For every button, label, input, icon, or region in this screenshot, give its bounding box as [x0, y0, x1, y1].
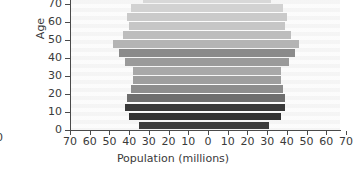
y-tick-label: 50 — [38, 33, 62, 46]
x-tick-label: 10 — [177, 135, 199, 148]
x-tick-label: 40 — [276, 135, 298, 148]
x-tick-label: 70 — [335, 135, 357, 148]
y-tick — [65, 130, 70, 131]
x-tick-label: 60 — [315, 135, 337, 148]
x-tick-label: 40 — [118, 135, 140, 148]
x-tick-label: 50 — [296, 135, 318, 148]
x-tick-label: 30 — [256, 135, 278, 148]
bar-10-14 — [125, 104, 285, 112]
clipped-neighbor-label: 0 — [0, 131, 3, 144]
x-tick-label: 0 — [197, 135, 219, 148]
x-tick-label: 30 — [138, 135, 160, 148]
y-tick-label: 40 — [38, 51, 62, 64]
x-tick-label: 10 — [217, 135, 239, 148]
y-tick — [65, 22, 70, 23]
y-tick-label: 60 — [38, 15, 62, 28]
bar-5-9 — [129, 113, 281, 121]
x-tick-label: 20 — [236, 135, 258, 148]
y-tick — [65, 4, 70, 5]
bar-20-24 — [131, 85, 283, 93]
bar-30-34 — [133, 67, 281, 75]
y-tick-label: 0 — [38, 123, 62, 136]
x-tick-label: 50 — [98, 135, 120, 148]
y-tick-label: 20 — [38, 87, 62, 100]
y-tick-label: 30 — [38, 69, 62, 82]
bar-45-49 — [113, 40, 298, 48]
bar-40-44 — [119, 49, 294, 57]
x-axis-spine — [70, 130, 341, 131]
bar-25-29 — [133, 76, 281, 84]
y-tick — [65, 40, 70, 41]
bar-15-19 — [127, 94, 285, 102]
y-tick — [65, 58, 70, 59]
bar-55-59 — [129, 22, 285, 30]
x-axis-title: Population (millions) — [0, 152, 350, 165]
y-tick-label: 10 — [38, 105, 62, 118]
y-tick — [65, 76, 70, 77]
bar-0-4 — [139, 122, 269, 130]
y-tick-label: 70 — [38, 0, 62, 10]
y-tick — [65, 94, 70, 95]
bar-50-54 — [123, 31, 291, 39]
bar-65-69 — [131, 4, 283, 12]
plot-area — [70, 0, 340, 130]
x-tick-label: 20 — [158, 135, 180, 148]
y-tick — [65, 112, 70, 113]
y-axis-spine — [70, 0, 71, 131]
bar-60-64 — [127, 13, 287, 21]
x-tick-label: 60 — [79, 135, 101, 148]
x-axis-title-text: Population (millions) — [117, 152, 229, 165]
bar-70-74 — [143, 0, 271, 3]
bar-35-39 — [125, 58, 289, 66]
x-tick-label: 70 — [59, 135, 81, 148]
